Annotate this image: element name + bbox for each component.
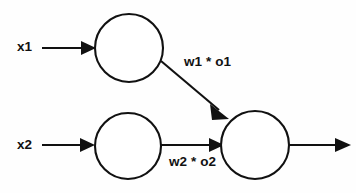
output-arrow: [289, 138, 351, 152]
edge-w1-head: [210, 104, 229, 120]
edge-w2: [161, 138, 224, 152]
node-hidden-1[interactable]: [95, 14, 163, 82]
input-arrow-x1: [42, 41, 96, 55]
input-arrow-x2-head: [80, 138, 95, 152]
node-hidden-2[interactable]: [95, 113, 161, 179]
input-arrow-x1-head: [81, 41, 96, 55]
edge-w1: [161, 61, 229, 120]
input-arrow-x2: [42, 138, 95, 152]
input-label-x1: x1: [17, 40, 32, 54]
neural-network-diagram: x1 x2 w1 * o1 w2 * o2: [0, 0, 356, 193]
node-output[interactable]: [221, 111, 289, 179]
input-label-x2: x2: [17, 138, 32, 152]
edge-label-w1: w1 * o1: [184, 55, 231, 69]
edge-label-w2: w2 * o2: [169, 155, 216, 169]
output-arrow-head: [335, 138, 351, 152]
